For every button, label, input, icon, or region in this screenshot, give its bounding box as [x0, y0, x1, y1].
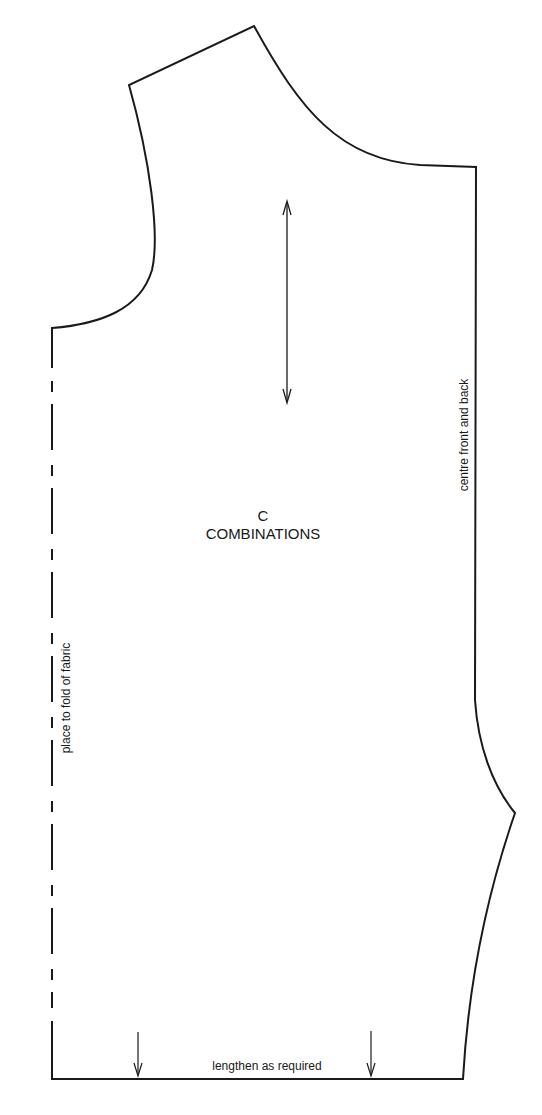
piece-name: COMBINATIONS	[0, 526, 526, 541]
pattern-piece-drawing	[0, 0, 542, 1115]
fold-annotation: place to fold of fabric	[60, 643, 72, 754]
centre-annotation: centre front and back	[458, 379, 470, 492]
grainline-arrow-icon	[283, 201, 291, 403]
piece-letter: C	[0, 508, 526, 523]
lengthen-annotation: lengthen as required	[0, 1060, 534, 1072]
pattern-outline	[52, 26, 515, 1079]
